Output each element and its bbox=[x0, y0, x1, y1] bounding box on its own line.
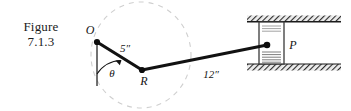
joint-P bbox=[264, 42, 271, 49]
piston-block bbox=[259, 22, 284, 64]
point-label-P: P bbox=[288, 38, 297, 52]
point-label-O: O bbox=[86, 23, 95, 37]
angle-label-theta: θ bbox=[109, 67, 115, 79]
top-guide-rail bbox=[247, 16, 341, 22]
bottom-guide-rail bbox=[247, 64, 341, 70]
joint-R bbox=[139, 67, 145, 73]
figure-canvas: Figure 7.1.3 bbox=[0, 0, 351, 111]
dimension-label-12in: 12″ bbox=[203, 68, 219, 80]
joint-O bbox=[94, 39, 100, 45]
point-label-R: R bbox=[139, 74, 148, 88]
dimension-label-5in: 5″ bbox=[120, 42, 131, 54]
crank-path-dashed-circle bbox=[91, 2, 191, 108]
mechanism-diagram: O R P 5″ 12″ θ bbox=[0, 0, 351, 111]
